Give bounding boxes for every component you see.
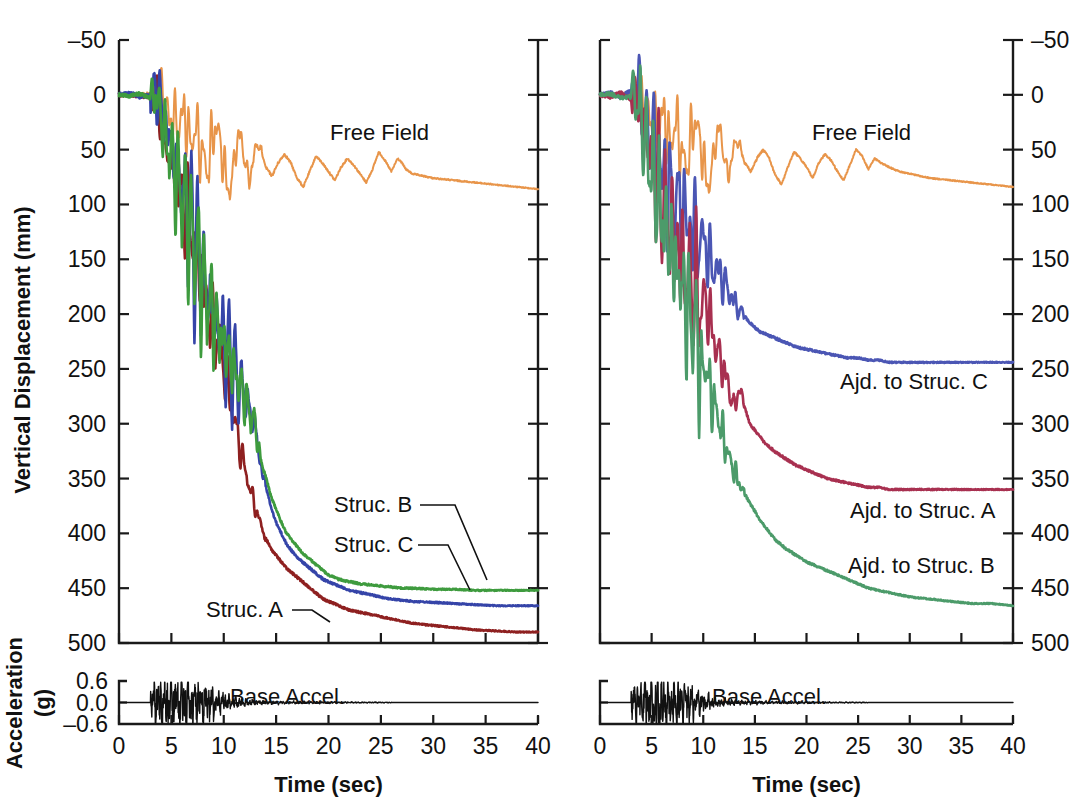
- y-tick-label: 200: [68, 301, 106, 327]
- y-tick-label-right: 500: [1031, 630, 1069, 656]
- x-tick-label: 15: [742, 733, 768, 759]
- label-ajd-struc-c: Ajd. to Struc. C: [840, 369, 988, 394]
- y-tick-label-right: 450: [1031, 575, 1069, 601]
- x-tick-label: 40: [1000, 733, 1026, 759]
- x-tick-label: 0: [113, 733, 126, 759]
- x-tick-label: 15: [263, 733, 289, 759]
- accel-tick-label: –0.6: [63, 711, 108, 737]
- trace-ajd-to-struc-a: [600, 77, 1013, 490]
- label-struc-b: Struc. B: [334, 492, 412, 517]
- x-tick-label: 0: [594, 733, 607, 759]
- y-tick-label-right: 300: [1031, 411, 1069, 437]
- y-tick-label-right: 100: [1031, 191, 1069, 217]
- x-tick-label: 35: [473, 733, 499, 759]
- x-tick-label: 5: [645, 733, 658, 759]
- x-tick-label: 10: [211, 733, 237, 759]
- y-tick-label: 50: [80, 137, 106, 163]
- label-ajd-struc-b: Ajd. to Struc. B: [848, 553, 995, 578]
- earthquake-settlement-chart: –500501001502002503003504004505000510152…: [0, 0, 1071, 810]
- trace-struc-a: [119, 76, 538, 633]
- y-tick-label: 300: [68, 411, 106, 437]
- trace-ajd-to-struc-c: [600, 55, 1013, 363]
- y-tick-label: 0: [93, 82, 106, 108]
- x-axis-title-left: Time (sec): [274, 772, 382, 797]
- trace-struc-b: [119, 79, 538, 591]
- y-tick-label-right: 200: [1031, 301, 1069, 327]
- label-struc-a: Struc. A: [206, 597, 283, 622]
- y-tick-label: 400: [68, 520, 106, 546]
- x-tick-label: 5: [165, 733, 178, 759]
- y-tick-label-right: –50: [1031, 27, 1069, 53]
- label-base-accel-left: Base Accel.: [230, 684, 345, 709]
- x-tick-label: 30: [420, 733, 446, 759]
- leader-struc-a: [292, 610, 330, 622]
- x-tick-label: 20: [316, 733, 342, 759]
- label-free-field-right: Free Field: [812, 120, 911, 145]
- y-tick-label-right: 150: [1031, 246, 1069, 272]
- trace-ajd-to-struc-b: [600, 66, 1013, 606]
- x-tick-label: 20: [794, 733, 820, 759]
- y-axis-title: Vertical Displacement (mm): [10, 206, 35, 493]
- label-base-accel-right: Base Accel.: [712, 684, 827, 709]
- x-tick-label: 40: [525, 733, 551, 759]
- trace-struc-c: [119, 70, 538, 606]
- x-tick-label: 25: [368, 733, 394, 759]
- y-tick-label-right: 50: [1031, 137, 1057, 163]
- y-tick-label: 500: [68, 630, 106, 656]
- y-tick-label: 150: [68, 246, 106, 272]
- x-tick-label: 25: [845, 733, 871, 759]
- x-tick-label: 10: [690, 733, 716, 759]
- y-tick-label: 450: [68, 575, 106, 601]
- leader-struc-b: [420, 505, 487, 580]
- y-tick-label: 350: [68, 466, 106, 492]
- accel-axis-title-line1: Acceleration: [2, 637, 27, 769]
- label-struc-c: Struc. C: [334, 532, 414, 557]
- leader-struc-c: [418, 545, 470, 590]
- y-tick-label-right: 0: [1031, 82, 1044, 108]
- y-tick-label: 250: [68, 356, 106, 382]
- y-tick-label: 100: [68, 191, 106, 217]
- label-ajd-struc-a: Ajd. to Struc. A: [850, 498, 996, 523]
- x-tick-label: 35: [949, 733, 975, 759]
- y-tick-label-right: 250: [1031, 356, 1069, 382]
- x-tick-label: 30: [897, 733, 923, 759]
- y-tick-label: –50: [68, 27, 106, 53]
- y-tick-label-right: 350: [1031, 466, 1069, 492]
- label-free-field-left: Free Field: [330, 120, 429, 145]
- accel-axis-title-line2: (g): [30, 689, 55, 717]
- figure-container: –500501001502002503003504004505000510152…: [0, 0, 1071, 810]
- y-tick-label-right: 400: [1031, 520, 1069, 546]
- x-axis-title-right: Time (sec): [752, 772, 860, 797]
